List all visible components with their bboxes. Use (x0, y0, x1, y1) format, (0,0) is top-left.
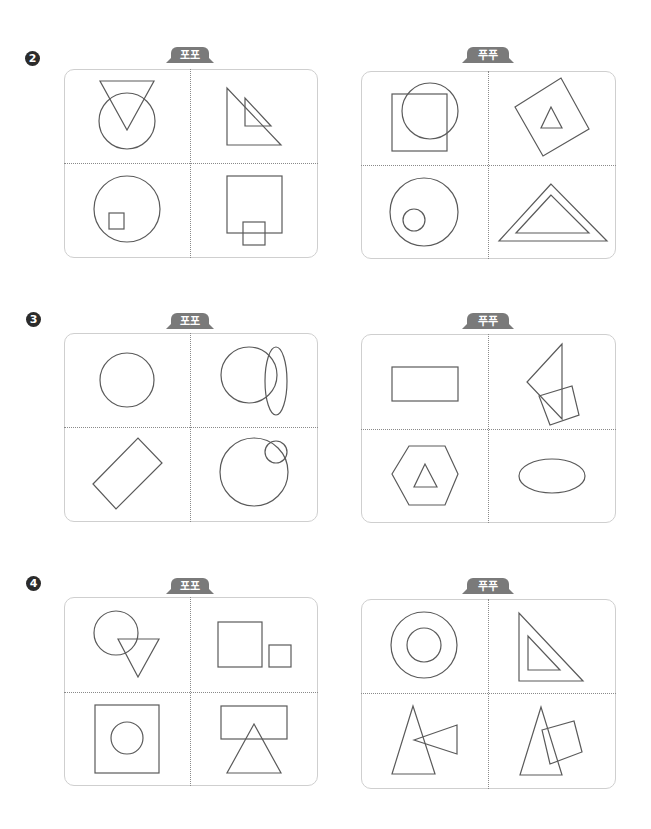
shape-small-circle-on-large-circle (220, 438, 288, 506)
shape-rotated-rectangle (93, 438, 162, 509)
shape-triangle-in-hexagon (392, 446, 458, 505)
shape-circle-with-ellipse (221, 347, 287, 415)
shape-triangle-with-sideways-triangle (392, 706, 457, 774)
shape-ellipse (519, 459, 585, 493)
shape-circle (100, 353, 154, 407)
shape-two-squares (218, 622, 291, 667)
shape-rectangle (392, 367, 458, 401)
shape-circle-in-square (95, 705, 159, 773)
shape-triangle-with-rotated-square (520, 707, 582, 775)
shape-square-in-circle (94, 176, 160, 242)
shape-circle-with-inverted-triangle (99, 81, 155, 149)
shape-triangle-in-rotated-square (515, 78, 589, 156)
shape-nested-right-triangles (519, 613, 583, 681)
shape-triangle-in-triangle (499, 184, 607, 241)
shape-concentric-circles (391, 612, 457, 678)
shape-triangle-overlapping-rectangle (221, 706, 287, 773)
shape-circle-overlapping-triangle (94, 611, 159, 677)
shape-nested-right-triangles (227, 88, 281, 145)
shape-drawings (0, 0, 651, 829)
shape-triangle-with-square (527, 344, 579, 425)
shape-circle-in-circle (390, 178, 458, 246)
shape-circle-overlapping-square (392, 83, 458, 151)
shape-square-overlapping-square (227, 176, 282, 245)
